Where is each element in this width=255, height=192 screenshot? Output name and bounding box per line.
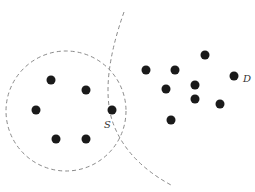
data-point (201, 51, 210, 60)
data-point (191, 81, 200, 90)
data-point (167, 116, 176, 125)
left-cluster-points (32, 76, 117, 144)
data-point (108, 106, 117, 115)
data-point (216, 100, 225, 109)
diagram-canvas: S D (0, 0, 255, 192)
data-point (82, 86, 91, 95)
data-point (32, 106, 41, 115)
data-point (171, 66, 180, 75)
data-point (142, 66, 151, 75)
label-d: D (242, 73, 251, 84)
right-cluster-points (142, 51, 239, 125)
data-point (82, 135, 91, 144)
label-s: S (104, 119, 111, 130)
data-point (52, 135, 61, 144)
data-point (162, 85, 171, 94)
data-point (47, 76, 56, 85)
separating-arc (108, 12, 171, 185)
data-point (191, 95, 200, 104)
data-point (230, 72, 239, 81)
